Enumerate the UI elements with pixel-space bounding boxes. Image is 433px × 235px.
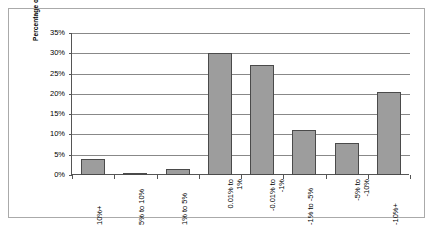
x-axis-tick-label: 5% to 10% [138,179,147,225]
bar[interactable] [166,169,190,175]
x-axis-tick-label-line: 1% to 5% [180,193,189,225]
bar-slot [241,33,283,175]
x-axis-tick-label: -1% to -5% [307,179,316,225]
x-axis-label-slot: 1% to 5% [156,179,198,227]
bar-slot [326,33,368,175]
bar-slot [114,33,156,175]
x-axis-tick-label: 10%+ [96,179,105,225]
bar[interactable] [81,159,105,175]
y-axis-tick-label: 5% [35,151,65,159]
x-axis-tick-label: 1% to 5% [181,179,190,225]
bar[interactable] [250,65,274,175]
x-axis-label-slot: 5% to 10% [113,179,155,227]
plot-area [71,33,409,175]
x-axis-label-slot: 0.01% to1% [198,179,240,227]
x-axis-label-slot: -0.01% to-1% [240,179,282,227]
bar[interactable] [335,143,359,175]
x-axis-tick-label: -10%+ [392,179,401,225]
bar-series [72,33,410,175]
x-axis-tick-label-line: -1% to -5% [306,188,315,225]
y-axis-tick-label: 30% [35,49,65,57]
bar[interactable] [292,130,316,175]
x-axis-label-slot: -10%+ [367,179,409,227]
y-axis-tick-label: 0% [35,171,65,179]
x-axis-label-slot: 10%+ [71,179,113,227]
bar-slot [199,33,241,175]
y-axis-tick-label: 35% [35,29,65,37]
bar[interactable] [123,173,147,175]
x-axis-tick-label-line: 10%+ [95,206,104,225]
bar[interactable] [377,92,401,175]
x-axis-label-slot: -1% to -5% [282,179,324,227]
y-axis-tick-label: 25% [35,70,65,78]
bar-slot [368,33,410,175]
bar-slot [283,33,325,175]
bar-slot [72,33,114,175]
y-axis-tick-labels: 0%5%10%15%20%25%30%35% [35,28,65,180]
x-axis-label-slot: -5% to-10% [325,179,367,227]
x-axis-tick-label-line: -10%+ [391,203,400,225]
y-axis-tick-label: 20% [35,90,65,98]
bar[interactable] [208,53,232,175]
y-axis-tick-label: 15% [35,110,65,118]
x-axis-tickmark [410,175,411,179]
y-axis-tick-label: 10% [35,130,65,138]
bar-slot [157,33,199,175]
x-axis-tick-label-line: -5% to [353,179,362,201]
chart-frame: Percentage of Loans 0%5%10%15%20%25%30%3… [8,8,425,218]
x-axis-tick-label-line: 5% to 10% [137,189,146,225]
x-axis-tick-labels: 10%+5% to 10%1% to 5%0.01% to1%-0.01% to… [71,179,409,227]
